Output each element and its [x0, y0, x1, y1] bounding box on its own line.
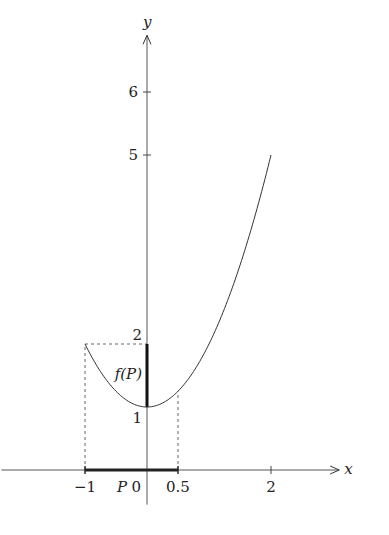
x-tick-label: 0.5 — [166, 478, 190, 496]
function-curve — [85, 155, 271, 407]
interval-p-label: P — [116, 478, 128, 496]
y-tick-label: 1 — [132, 409, 142, 427]
y-tick-label: 5 — [128, 146, 138, 164]
x-tick-label: 0 — [131, 478, 141, 496]
y-tick-label: 2 — [132, 326, 142, 344]
y-tick-label: 6 — [128, 83, 138, 101]
x-tick-label: 2 — [266, 478, 276, 496]
x-axis-label: x — [344, 460, 353, 478]
x-tick-label: −1 — [74, 478, 96, 496]
function-plot: xy−100.521256Pf(P) — [0, 0, 389, 535]
y-axis-label: y — [142, 13, 152, 31]
image-fp-label: f(P) — [114, 365, 142, 383]
